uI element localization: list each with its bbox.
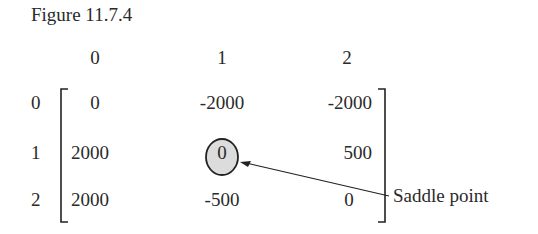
- column-header-2: 2: [342, 47, 352, 69]
- matrix-cell-0-1: -2000: [200, 92, 244, 114]
- arrow-line-icon: [246, 163, 389, 196]
- arrow-head-icon: [240, 161, 251, 167]
- matrix-cell-2-0: 2000: [71, 189, 109, 211]
- saddle-point-label: Saddle point: [393, 185, 489, 207]
- column-header-0: 0: [90, 47, 100, 69]
- matrix-cell-1-2: 500: [344, 142, 373, 164]
- column-header-1: 1: [217, 47, 227, 69]
- row-label-2: 2: [31, 189, 41, 211]
- figure-title: Figure 11.7.4: [31, 4, 132, 26]
- saddle-value: 0: [217, 142, 227, 164]
- right-bracket-icon: [378, 89, 385, 222]
- matrix-cell-2-1: -500: [205, 189, 240, 211]
- left-bracket-icon: [61, 89, 68, 222]
- matrix-cell-2-2: 0: [344, 189, 354, 211]
- matrix-cell-0-2: -2000: [328, 92, 372, 114]
- matrix-cell-1-0: 2000: [71, 142, 109, 164]
- matrix-cell-0-0: 0: [90, 92, 100, 114]
- row-label-1: 1: [31, 142, 41, 164]
- row-label-0: 0: [31, 92, 41, 114]
